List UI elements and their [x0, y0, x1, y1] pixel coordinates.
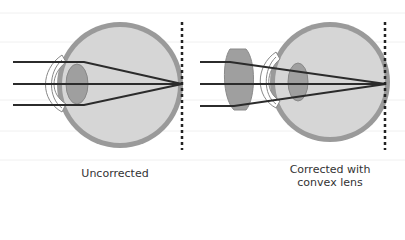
caption-corrected-line2: convex lens [270, 176, 390, 189]
caption-corrected: Corrected with convex lens [270, 163, 390, 189]
caption-uncorrected: Uncorrected [60, 167, 170, 180]
caption-corrected-line1: Corrected with [270, 163, 390, 176]
convex-lens [224, 49, 253, 110]
caption-uncorrected-text: Uncorrected [81, 167, 148, 180]
